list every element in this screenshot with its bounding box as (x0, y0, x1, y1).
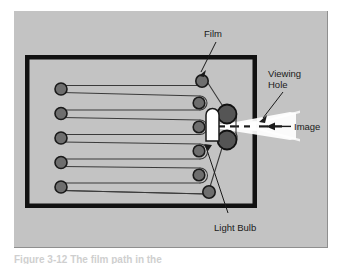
label-viewing-hole-line1: Viewing (268, 68, 301, 79)
figure-root: Film Viewing Hole Image Light Bulb Figur… (0, 0, 340, 266)
label-film: Film (204, 28, 222, 39)
diagram-svg (0, 0, 340, 266)
light-bulb (206, 109, 219, 141)
label-viewing-hole-line2: Hole (268, 79, 288, 90)
figure-caption-partial: Figure 3-12 The film path in the (14, 254, 254, 264)
label-light-bulb: Light Bulb (214, 222, 256, 233)
left-roller-group (55, 83, 67, 193)
label-image: Image (294, 121, 320, 132)
